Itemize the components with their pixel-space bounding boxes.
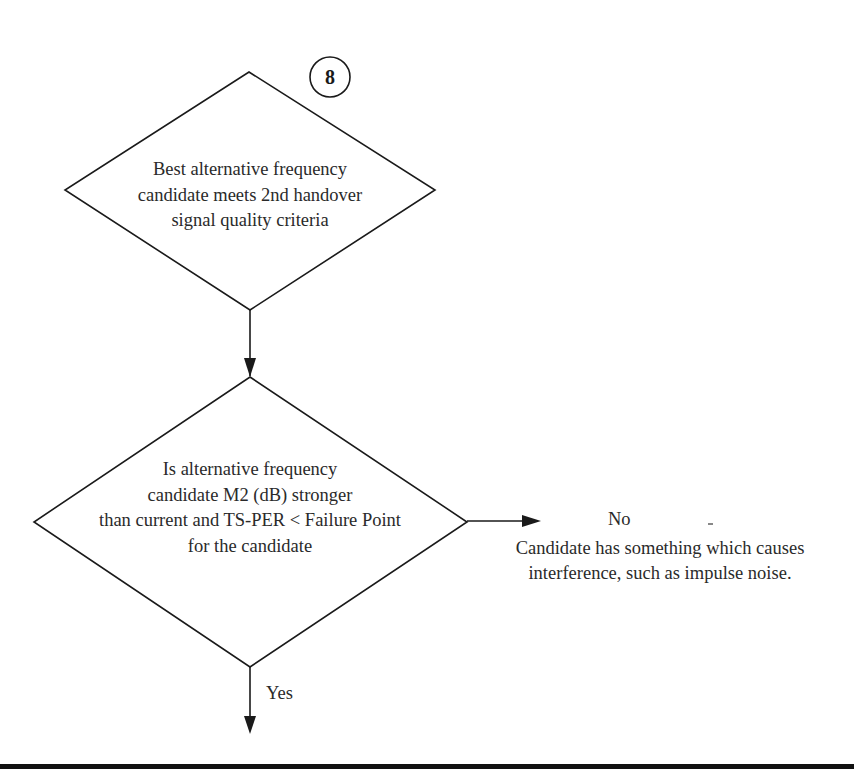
no-branch-note-line: interference, such as impulse noise. bbox=[465, 561, 854, 586]
decision-2-line: Is alternative frequency bbox=[60, 457, 440, 483]
arrowhead-down-icon bbox=[244, 358, 256, 377]
no-branch-note-line: Candidate has something which causes bbox=[465, 536, 854, 561]
decision-1-text: Best alternative frequency candidate mee… bbox=[100, 157, 400, 234]
arrowhead-right-icon bbox=[522, 515, 541, 527]
decision-2-line: candidate M2 (dB) stronger bbox=[60, 483, 440, 509]
scan-artifact bbox=[708, 523, 713, 525]
decision-1-line: Best alternative frequency bbox=[100, 157, 400, 183]
flowchart-canvas: 8 Best alternative frequency candidate m… bbox=[0, 0, 854, 780]
decision-2-line: than current and TS-PER < Failure Point bbox=[60, 508, 440, 534]
decision-1-line: signal quality criteria bbox=[100, 208, 400, 234]
no-branch-label: No bbox=[608, 509, 631, 530]
decision-1-line: candidate meets 2nd handover bbox=[100, 183, 400, 209]
decision-2-line: for the candidate bbox=[60, 534, 440, 560]
page-bottom-rule bbox=[0, 764, 854, 769]
arrowhead-down-icon bbox=[244, 716, 256, 734]
flowchart-shapes bbox=[0, 0, 854, 780]
step-number-label: 8 bbox=[310, 57, 350, 97]
decision-2-text: Is alternative frequency candidate M2 (d… bbox=[60, 457, 440, 559]
yes-branch-label: Yes bbox=[266, 683, 293, 704]
no-branch-note: Candidate has something which causes int… bbox=[465, 536, 854, 586]
